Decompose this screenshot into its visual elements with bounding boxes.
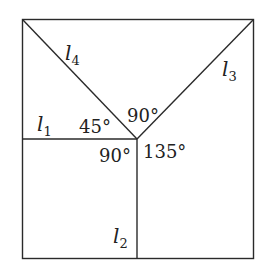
angle-90-bottom: 90° [99, 145, 131, 166]
label-l4: l4 [65, 41, 80, 68]
angle-45: 45° [79, 116, 111, 137]
label-l2: l2 [113, 224, 128, 251]
label-l3: l3 [222, 57, 237, 84]
geometry-diagram: l4 l3 l1 l2 45° 90° 90° 135° [0, 0, 276, 278]
angle-135: 135° [143, 141, 186, 162]
label-l1: l1 [37, 112, 52, 139]
angle-90-top: 90° [127, 105, 159, 126]
